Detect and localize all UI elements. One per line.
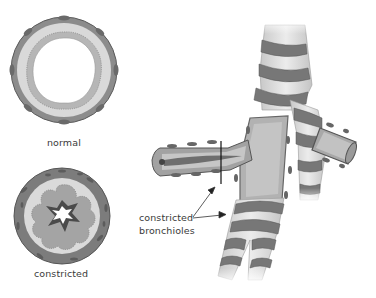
- constricted-cross-section: [14, 168, 110, 264]
- constricted-label: constricted: [34, 268, 88, 280]
- bronchial-tree: [152, 18, 359, 284]
- lower-bronchioles: [214, 198, 284, 284]
- normal-cross-section: [10, 16, 119, 125]
- bronchi-illustration: [0, 0, 376, 298]
- normal-label: normal: [47, 137, 81, 149]
- annotation-line-2: bronchioles: [139, 225, 195, 237]
- cut-left-bronchiole: [152, 140, 252, 177]
- annotation-line-1: constricted: [139, 212, 193, 224]
- annotation-arrows: [193, 187, 226, 218]
